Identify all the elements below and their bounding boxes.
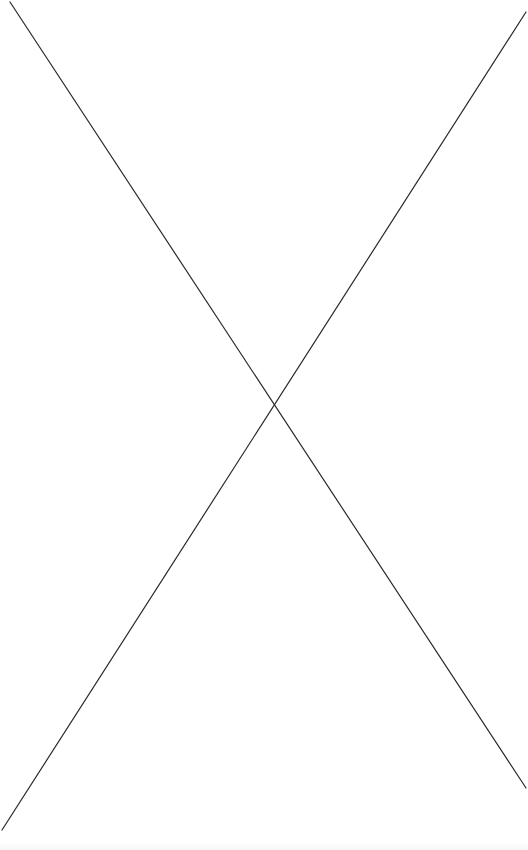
diagonal-line-top-left-to-bottom-right <box>10 2 526 788</box>
diagonal-line-top-right-to-bottom-left <box>2 12 526 830</box>
image-placeholder <box>0 0 528 850</box>
placeholder-cross-icon <box>0 0 528 850</box>
bottom-edge-shade <box>0 842 528 850</box>
